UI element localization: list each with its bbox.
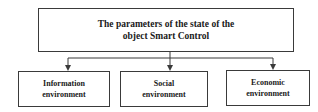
node-information-environment: Information environment bbox=[18, 71, 110, 107]
node-label-line1: Information bbox=[38, 78, 89, 89]
node-label-line2: environment bbox=[242, 88, 293, 99]
node-social-environment: Social environment bbox=[120, 71, 208, 107]
node-label-line1: Social bbox=[138, 78, 189, 89]
node-label-line2: environment bbox=[38, 89, 89, 100]
root-label-line2: object Smart Control bbox=[94, 30, 239, 42]
node-label-line2: environment bbox=[138, 89, 189, 100]
root-label-line1: The parameters of the state of the bbox=[94, 18, 239, 30]
node-label-line1: Economic bbox=[242, 77, 293, 88]
root-node-state-parameters: The parameters of the state of the objec… bbox=[38, 8, 294, 52]
node-economic-environment: Economic environment bbox=[226, 70, 310, 106]
